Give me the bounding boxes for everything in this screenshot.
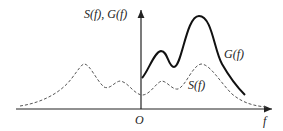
x-axis-label: f [263,114,268,128]
figure: S(f), G(f) G(f) S(f) O f [0,0,283,131]
s-curve [20,64,266,107]
g-curve-label: G(f) [224,47,244,61]
s-curve-label: S(f) [188,78,205,92]
y-axis-label: S(f), G(f) [84,7,127,21]
spectrum-diagram: S(f), G(f) G(f) S(f) O f [0,0,283,131]
origin-label: O [135,113,144,127]
